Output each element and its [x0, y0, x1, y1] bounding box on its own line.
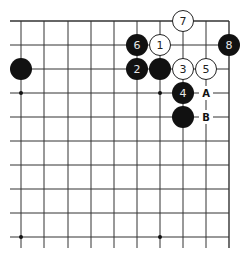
star-point: [158, 91, 162, 95]
white-stone-7: 7: [172, 10, 194, 32]
black-stone: [172, 106, 194, 128]
star-point: [158, 235, 162, 239]
star-point: [19, 91, 23, 95]
board-grid: [0, 0, 247, 254]
black-stone: [149, 58, 171, 80]
black-stone-6: 6: [126, 34, 148, 56]
black-stone-4: 4: [172, 82, 194, 104]
point-marker-b: B: [199, 110, 213, 124]
white-stone-1: 1: [149, 34, 171, 56]
go-board-diagram: AB12345678: [0, 0, 247, 254]
white-stone-5: 5: [195, 58, 217, 80]
white-stone-3: 3: [172, 58, 194, 80]
star-point: [19, 235, 23, 239]
black-stone: [10, 58, 32, 80]
black-stone-2: 2: [126, 58, 148, 80]
black-stone-8: 8: [218, 34, 240, 56]
point-marker-a: A: [199, 86, 213, 100]
